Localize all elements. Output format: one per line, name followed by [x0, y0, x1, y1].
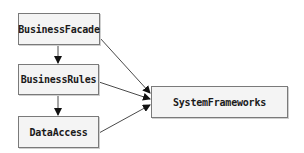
node-label: BusinessRules	[21, 74, 97, 85]
diagram-canvas: BusinessFacade BusinessRules DataAccess …	[0, 0, 304, 153]
edge-dataaccess-to-systemframeworks	[99, 105, 150, 133]
node-business-rules: BusinessRules	[18, 64, 99, 95]
node-label: SystemFrameworks	[173, 97, 266, 108]
node-label: DataAccess	[29, 127, 87, 138]
node-system-frameworks: SystemFrameworks	[151, 86, 288, 118]
node-label: BusinessFacade	[18, 24, 100, 35]
node-data-access: DataAccess	[18, 116, 99, 148]
node-business-facade: BusinessFacade	[18, 13, 100, 45]
